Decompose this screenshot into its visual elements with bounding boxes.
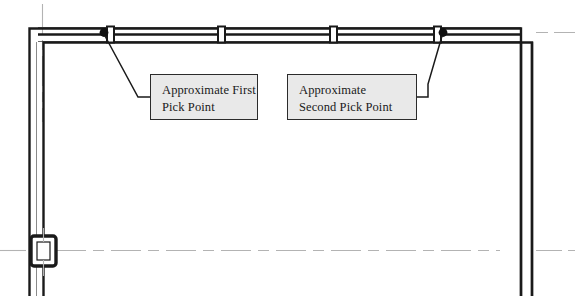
leader-line-first	[105, 36, 150, 97]
first-pick-point-marker[interactable]	[100, 28, 109, 37]
callout-second-line2: Second Pick Point	[299, 99, 416, 116]
callout-first-line2: Pick Point	[162, 99, 257, 116]
callout-first-line1: Approximate First	[162, 82, 257, 99]
wall-outer-outline	[30, 29, 522, 296]
callout-first-pick-point: Approximate First Pick Point	[150, 74, 258, 120]
second-pick-point-marker[interactable]	[439, 28, 448, 37]
mullion-right	[330, 27, 337, 43]
column-inner	[37, 242, 50, 260]
callout-second-line1: Approximate	[299, 82, 416, 99]
callout-second-pick-point: Approximate Second Pick Point	[287, 74, 417, 120]
mullion-left	[218, 27, 225, 43]
cad-drawing-canvas: Approximate First Pick Point Approximate…	[0, 0, 575, 296]
leader-line-second	[417, 36, 442, 97]
column-symbol	[31, 228, 56, 276]
floor-plan-linework	[0, 0, 575, 296]
